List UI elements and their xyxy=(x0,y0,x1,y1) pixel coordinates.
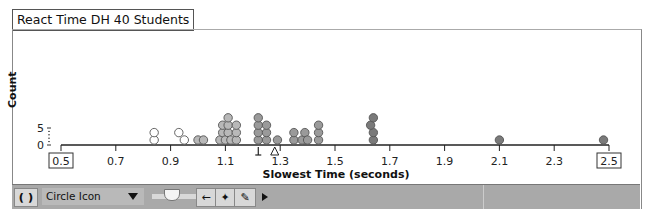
chevron-down-icon xyxy=(128,193,138,200)
data-point[interactable] xyxy=(599,136,607,144)
y-axis: 05 xyxy=(37,122,51,152)
data-point[interactable] xyxy=(180,136,188,144)
y-axis-label: Count xyxy=(6,71,19,108)
data-point[interactable] xyxy=(290,128,298,136)
y-tick-label: 5 xyxy=(37,122,44,135)
data-point[interactable] xyxy=(314,121,322,129)
toolbar-divider xyxy=(483,185,484,209)
x-tick-label: 2.1 xyxy=(491,155,509,168)
x-tick-label: 2.5 xyxy=(600,155,618,168)
rotate-arrows-icon[interactable]: ❪❫ xyxy=(14,188,38,207)
slider-thumb[interactable] xyxy=(164,189,180,201)
data-point[interactable] xyxy=(224,114,232,122)
play-triangle-icon[interactable] xyxy=(262,193,268,201)
x-tick-label: 0.5 xyxy=(52,155,70,168)
left-arrow-icon[interactable]: ← xyxy=(196,188,216,207)
y-tick-label: 0 xyxy=(37,139,44,152)
icon-style-select[interactable]: Circle Icon xyxy=(42,188,144,205)
select-value: Circle Icon xyxy=(46,190,101,202)
x-tick-label: 1.1 xyxy=(217,155,235,168)
x-tick-label: 0.7 xyxy=(107,155,125,168)
x-tick-label: 1.5 xyxy=(326,155,344,168)
data-point[interactable] xyxy=(369,114,377,122)
x-tick-label: 1.9 xyxy=(436,155,454,168)
data-point[interactable] xyxy=(273,136,281,144)
pencil-icon[interactable]: ✎ xyxy=(234,188,256,207)
data-point[interactable] xyxy=(199,136,207,144)
data-point[interactable] xyxy=(262,121,270,129)
x-axis: 0.50.70.91.11.31.51.71.92.12.32.5 xyxy=(49,145,621,168)
stat-markers xyxy=(255,147,278,155)
data-point[interactable] xyxy=(254,114,262,122)
x-tick-label: 1.7 xyxy=(381,155,399,168)
x-axis-label: Slowest Time (seconds) xyxy=(263,168,410,181)
data-points[interactable] xyxy=(150,114,608,145)
x-tick-label: 2.3 xyxy=(545,155,563,168)
x-tick-label: 0.9 xyxy=(162,155,180,168)
data-point[interactable] xyxy=(232,121,240,129)
plus-icon[interactable]: ✦ xyxy=(215,188,235,207)
data-point[interactable] xyxy=(150,128,158,136)
x-tick-label: 1.3 xyxy=(271,155,289,168)
data-point[interactable] xyxy=(175,128,183,136)
data-point[interactable] xyxy=(495,136,503,144)
data-point[interactable] xyxy=(303,136,311,144)
toolbar: ❪❫ Circle Icon ← ✦ ✎ xyxy=(12,184,640,209)
